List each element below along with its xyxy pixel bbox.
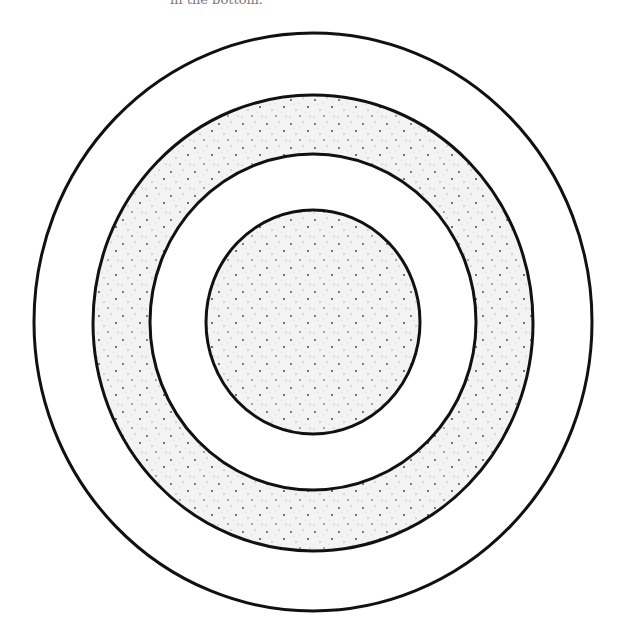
ring-inner	[206, 210, 420, 434]
concentric-circles-diagram	[0, 0, 622, 634]
